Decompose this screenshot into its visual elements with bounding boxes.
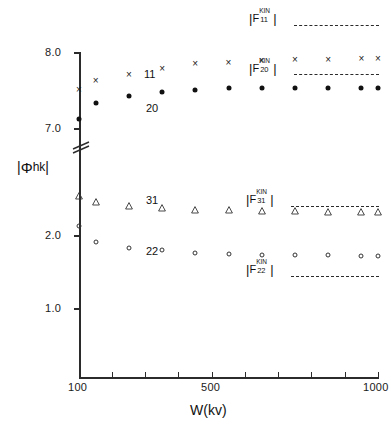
data-point-20 bbox=[326, 85, 331, 90]
data-point-31 bbox=[324, 202, 332, 220]
data-point-11: × bbox=[358, 55, 364, 63]
data-point-22 bbox=[326, 253, 331, 258]
data-point-31 bbox=[191, 200, 199, 218]
data-point-22 bbox=[376, 254, 381, 259]
data-point-20 bbox=[376, 85, 381, 90]
data-point-11: × bbox=[375, 55, 381, 63]
data-point-22 bbox=[359, 254, 364, 259]
data-point-31 bbox=[225, 200, 233, 218]
data-point-31 bbox=[258, 201, 266, 219]
data-point-31 bbox=[357, 202, 365, 220]
data-point-20 bbox=[359, 85, 364, 90]
data-point-20 bbox=[292, 85, 297, 90]
data-point-11: × bbox=[259, 57, 265, 65]
data-point-20 bbox=[77, 116, 82, 121]
data-point-11: × bbox=[93, 77, 99, 85]
data-point-11: × bbox=[159, 65, 165, 73]
data-point-31 bbox=[291, 201, 299, 219]
data-point-11: × bbox=[292, 56, 298, 64]
chart-figure: 8.0 7.0 2.0 1.0 | Φ hk| 100 500 1000 W(k… bbox=[0, 0, 391, 431]
data-point-22 bbox=[126, 246, 131, 251]
data-point-22 bbox=[77, 223, 82, 228]
data-point-31 bbox=[374, 202, 382, 220]
data-point-20 bbox=[126, 94, 131, 99]
data-point-22 bbox=[160, 248, 165, 253]
data-point-11: × bbox=[126, 71, 132, 79]
data-point-11: × bbox=[226, 59, 232, 67]
data-point-31 bbox=[92, 192, 100, 210]
data-point-20 bbox=[93, 100, 98, 105]
data-point-22 bbox=[93, 240, 98, 245]
data-point-22 bbox=[193, 250, 198, 255]
data-point-20 bbox=[160, 90, 165, 95]
data-point-11: × bbox=[76, 86, 82, 94]
data-point-31 bbox=[125, 196, 133, 214]
data-point-20 bbox=[259, 86, 264, 91]
data-marker-layer: ××××××××××× bbox=[0, 0, 391, 431]
data-point-22 bbox=[259, 252, 264, 257]
data-point-22 bbox=[226, 251, 231, 256]
data-point-31 bbox=[158, 198, 166, 216]
data-point-22 bbox=[292, 253, 297, 258]
data-point-20 bbox=[193, 88, 198, 93]
data-point-11: × bbox=[192, 60, 198, 68]
data-point-20 bbox=[226, 86, 231, 91]
data-point-11: × bbox=[325, 56, 331, 64]
data-point-31 bbox=[75, 186, 83, 204]
